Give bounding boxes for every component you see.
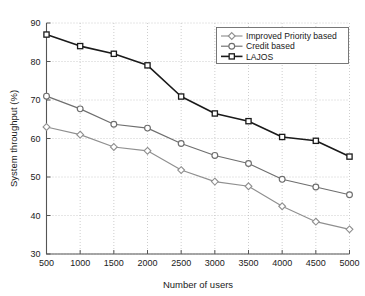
data-point-circle [111,121,117,127]
x-tick-label: 2000 [137,258,157,268]
x-tick-label: 2500 [171,258,191,268]
data-point-circle [178,141,184,147]
line-chart: 3040506070809050010001500200025003000350… [0,0,365,296]
y-tick-label: 80 [30,57,40,67]
x-tick-label: 500 [39,258,54,268]
data-point-circle [246,161,252,167]
data-point-square [44,32,49,37]
data-point-square [78,44,83,49]
legend-label: Credit based [246,41,295,51]
x-axis: 500100015002000250030003500400045005000 [39,250,360,268]
data-point-circle [145,125,151,131]
data-point-diamond [312,218,319,225]
data-point-square [212,111,217,116]
data-point-diamond [178,167,185,174]
legend: Improved Priority basedCredit basedLAJOS [217,28,349,64]
chart-figure: 3040506070809050010001500200025003000350… [0,0,365,296]
data-point-square [347,154,352,159]
y-axis-title: System throughput (%) [8,90,19,187]
data-point-circle [313,184,319,190]
x-axis-title: Number of users [163,279,233,290]
data-point-square [229,54,234,59]
x-tick-label: 3000 [205,258,225,268]
data-point-square [111,51,116,56]
data-point-square [313,138,318,143]
y-tick-label: 60 [30,134,40,144]
data-point-circle [279,176,285,182]
data-point-square [280,134,285,139]
data-point-diamond [346,226,353,233]
series-credit-based [44,93,353,197]
series-line [47,127,350,229]
x-tick-label: 1000 [70,258,90,268]
y-tick-label: 40 [30,211,40,221]
data-point-square [145,63,150,68]
x-tick-label: 5000 [339,258,359,268]
x-tick-label: 4000 [272,258,292,268]
data-point-diamond [43,124,50,131]
data-point-square [246,119,251,124]
y-tick-label: 50 [30,172,40,182]
data-point-square [179,94,184,99]
y-tick-label: 70 [30,95,40,105]
series-line [47,96,350,195]
data-point-diamond [279,203,286,210]
x-tick-label: 1500 [104,258,124,268]
data-point-diamond [211,178,218,185]
legend-label: Improved Priority based [246,31,337,41]
legend-label: LAJOS [246,52,273,62]
data-point-diamond [144,147,151,154]
data-point-circle [212,153,218,159]
data-point-diamond [110,144,117,151]
data-point-circle [229,43,235,49]
x-tick-label: 3500 [238,258,258,268]
data-point-circle [44,93,50,99]
data-point-circle [77,106,83,112]
data-point-diamond [245,183,252,190]
data-point-diamond [77,131,84,138]
data-point-circle [347,192,353,198]
y-tick-label: 90 [30,18,40,28]
x-tick-label: 4500 [306,258,326,268]
y-axis: 30405060708090 [30,18,50,259]
